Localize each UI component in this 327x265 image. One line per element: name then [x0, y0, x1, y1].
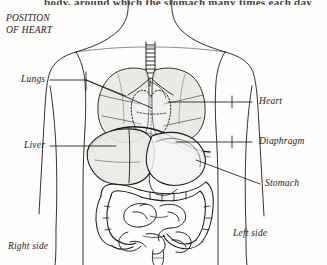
label-liver: Liver	[24, 140, 45, 151]
label-diaphragm: Diaphragm	[259, 136, 305, 147]
anatomy-figure: body, around which the stomach many time…	[0, 0, 327, 265]
figure-title-line1: POSITION	[6, 13, 50, 23]
figure-title-line2: OF HEART	[6, 25, 52, 35]
label-right-side: Right side	[8, 241, 48, 252]
label-left-side: Left side	[233, 228, 267, 239]
label-lungs: Lungs	[21, 74, 45, 85]
label-heart: Heart	[259, 96, 282, 107]
large-intestine	[96, 182, 213, 249]
liver	[87, 129, 154, 185]
torso-anatomy-drawing	[0, 0, 327, 265]
small-intestine	[119, 203, 191, 254]
label-stomach: Stomach	[265, 178, 299, 189]
figure-title: POSITION OF HEART	[6, 13, 52, 36]
